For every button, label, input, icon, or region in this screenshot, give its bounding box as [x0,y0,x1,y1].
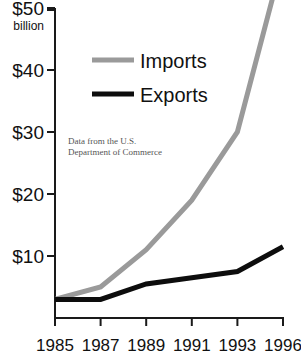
x-tick-label: 1993 [218,336,256,355]
line-chart: $10$20$30$40$50 billion 1985198719891991… [0,0,301,360]
x-tick-label: 1991 [173,336,211,355]
x-ticks [55,318,283,326]
x-tick-labels: 198519871989199119931996 [36,336,301,355]
x-tick-label: 1989 [127,336,165,355]
y-ticks [47,8,55,256]
legend-label-imports: Imports [140,50,207,72]
y-tick-label: $50 [12,0,44,19]
y-axis-line [47,8,55,318]
x-tick-label: 1996 [264,336,301,355]
source-note: Data from the U.S. Department of Commerc… [68,136,162,157]
y-axis-unit-label: billion [13,19,44,33]
y-tick-label: $30 [12,122,44,143]
chart-legend: Imports Exports [92,50,208,106]
source-note-line-1: Data from the U.S. [68,136,136,146]
y-tick-label: $10 [12,246,44,267]
y-tick-label: $40 [12,60,44,81]
x-tick-label: 1985 [36,336,74,355]
y-tick-label: $20 [12,184,44,205]
y-tick-labels: $10$20$30$40$50 [12,0,44,267]
legend-label-exports: Exports [140,84,208,106]
x-axis-line [55,318,283,326]
x-tick-label: 1987 [82,336,120,355]
chart-svg: $10$20$30$40$50 billion 1985198719891991… [0,0,301,360]
source-note-line-2: Department of Commerce [68,147,162,157]
